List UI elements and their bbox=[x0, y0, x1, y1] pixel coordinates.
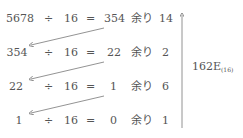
divisor: 16 bbox=[64, 115, 78, 127]
divide-sign: ÷ bbox=[44, 47, 53, 59]
remainder: 1 bbox=[162, 115, 169, 127]
hex-result: 162E(16) bbox=[192, 60, 233, 73]
base-subscript: (16) bbox=[221, 66, 233, 73]
remainder-label: 余り bbox=[131, 13, 153, 25]
carry-arrow-3 bbox=[31, 96, 104, 113]
quotient: 354 bbox=[104, 13, 125, 25]
remainder: 6 bbox=[162, 81, 169, 93]
carry-arrow-2 bbox=[31, 62, 104, 79]
remainder-label: 余り bbox=[131, 47, 153, 59]
dividend: 1 bbox=[4, 115, 34, 127]
remainder-label: 余り bbox=[131, 81, 153, 93]
quotient: 1 bbox=[110, 81, 117, 93]
hex-value: 162E bbox=[192, 60, 221, 73]
remainder: 2 bbox=[162, 47, 169, 59]
equals-sign: = bbox=[86, 115, 95, 127]
remainder-label: 余り bbox=[131, 115, 153, 127]
dividend: 354 bbox=[2, 47, 32, 59]
remainder: 14 bbox=[159, 13, 173, 25]
divisor: 16 bbox=[64, 13, 78, 25]
divide-sign: ÷ bbox=[44, 81, 53, 93]
divide-sign: ÷ bbox=[44, 13, 53, 25]
equals-sign: = bbox=[86, 81, 95, 93]
quotient: 22 bbox=[107, 47, 121, 59]
equals-sign: = bbox=[86, 47, 95, 59]
equals-sign: = bbox=[86, 13, 95, 25]
dividend: 5678 bbox=[5, 13, 35, 25]
dividend: 22 bbox=[1, 81, 31, 93]
carry-arrow-1 bbox=[31, 28, 104, 45]
divisor: 16 bbox=[64, 47, 78, 59]
divide-sign: ÷ bbox=[44, 115, 53, 127]
quotient: 0 bbox=[110, 115, 117, 127]
divisor: 16 bbox=[64, 81, 78, 93]
